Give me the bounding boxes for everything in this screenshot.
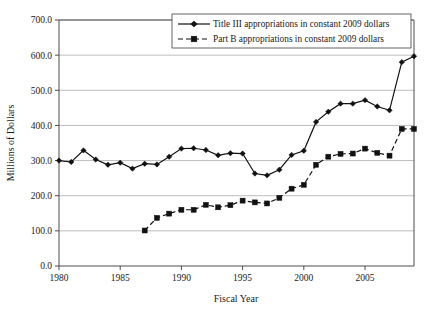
y-tick-label: 300.0	[31, 156, 53, 166]
data-point-marker	[179, 207, 184, 212]
y-tick-label: 400.0	[31, 121, 53, 131]
y-tick-label: 500.0	[31, 86, 53, 96]
x-tick-label: 1990	[172, 273, 191, 283]
y-tick-label: 200.0	[31, 191, 53, 201]
data-point-marker	[338, 151, 343, 156]
legend: Title III appropriations in constant 200…	[172, 14, 411, 48]
x-tick-label: 2000	[294, 273, 313, 283]
chart-container: 0.0100.0200.0300.0400.0500.0600.0700.0 1…	[0, 0, 425, 315]
data-point-marker	[240, 198, 245, 203]
x-tick-label: 2005	[356, 273, 375, 283]
data-point-marker	[289, 186, 294, 191]
data-point-marker	[216, 205, 221, 210]
data-point-marker	[167, 211, 172, 216]
data-point-marker	[265, 201, 270, 206]
data-point-marker	[412, 126, 417, 131]
y-tick-label: 100.0	[31, 226, 53, 236]
data-point-marker	[387, 153, 392, 158]
data-point-marker	[203, 202, 208, 207]
data-point-marker	[363, 146, 368, 151]
x-axis-title: Fiscal Year	[214, 293, 259, 304]
data-point-marker	[326, 154, 331, 159]
data-point-marker	[228, 203, 233, 208]
y-tick-label: 0.0	[40, 261, 52, 271]
data-point-marker	[301, 182, 306, 187]
legend-label-title-iii: Title III appropriations in constant 200…	[213, 19, 390, 29]
data-point-marker	[314, 162, 319, 167]
data-point-marker	[191, 207, 196, 212]
y-axis-title: Millions of Dollars	[5, 105, 16, 182]
plot-area	[59, 20, 414, 266]
y-tick-label: 700.0	[31, 15, 53, 25]
legend-label-part-b: Part B appropriations in constant 2009 d…	[213, 34, 384, 44]
data-point-marker	[154, 215, 159, 220]
data-point-marker	[277, 195, 282, 200]
y-tick-label: 600.0	[31, 51, 53, 61]
legend-marker-square	[191, 36, 197, 42]
x-tick-label: 1980	[50, 273, 69, 283]
plot-background	[59, 20, 414, 266]
data-point-marker	[252, 200, 257, 205]
x-tick-label: 1995	[233, 273, 252, 283]
line-chart: 0.0100.0200.0300.0400.0500.0600.0700.0 1…	[0, 0, 425, 315]
data-point-marker	[399, 126, 404, 131]
data-point-marker	[350, 151, 355, 156]
x-tick-label: 1985	[111, 273, 130, 283]
data-point-marker	[142, 228, 147, 233]
data-point-marker	[375, 150, 380, 155]
